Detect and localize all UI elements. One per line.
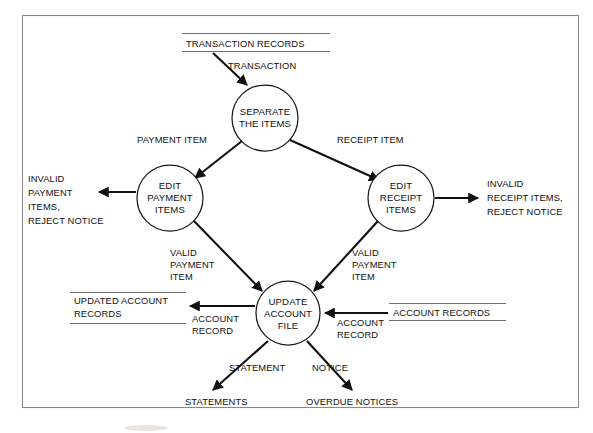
external-invalid-payment-line3: ITEMS, [28, 201, 60, 212]
external-statements: STATEMENTS [185, 396, 248, 407]
flow-statement-label: STATEMENT [229, 362, 285, 373]
data-store-updated-account-records-line1: UPDATED ACCOUNT [74, 295, 168, 306]
flow-account-record-right-line1: ACCOUNT [337, 317, 384, 328]
flow-notice: NOTICE [307, 341, 352, 390]
external-invalid-payment-line4: REJECT NOTICE [28, 215, 104, 226]
process-edit-receipt-items-line1: EDIT [390, 180, 412, 191]
external-invalid-receipt-line1: INVALID [487, 178, 524, 189]
external-invalid-payment-line1: INVALID [28, 173, 65, 184]
flow-receipt-item-label: RECEIPT ITEM [337, 134, 404, 145]
process-separate-the-items-line2: THE ITEMS [239, 118, 291, 129]
process-edit-payment-items-line1: EDIT [159, 180, 181, 191]
process-edit-payment-items-line3: ITEMS [155, 204, 185, 215]
process-separate-the-items-line1: SEPARATE [240, 106, 291, 117]
process-update-account-file-line3: FILE [278, 320, 299, 331]
flow-payment-item-label: PAYMENT ITEM [137, 134, 207, 145]
data-flow-diagram: TRANSACTION RECORDS TRANSACTION SEPARATE… [0, 0, 593, 433]
process-update-account-file-line2: ACCOUNT [264, 308, 312, 319]
flow-account-record-right: ACCOUNT RECORD [325, 313, 388, 340]
external-invalid-receipt-line3: REJECT NOTICE [487, 206, 563, 217]
flow-account-record-left: ACCOUNT RECORD [190, 306, 255, 336]
flow-transaction-label: TRANSACTION [228, 60, 296, 71]
flow-valid-payment-right: VALID PAYMENT ITEM [314, 221, 397, 291]
data-store-updated-account-records-line2: RECORDS [74, 308, 122, 319]
flow-valid-payment-left-line3: ITEM [170, 271, 193, 282]
data-store-transaction-records: TRANSACTION RECORDS [182, 34, 330, 52]
process-update-account-file[interactable]: UPDATE ACCOUNT FILE [256, 281, 320, 345]
process-edit-receipt-items-line2: RECEIPT [380, 192, 422, 203]
flow-notice-label: NOTICE [312, 362, 348, 373]
process-edit-payment-items[interactable]: EDIT PAYMENT ITEMS [137, 165, 203, 231]
external-invalid-receipt: INVALID RECEIPT ITEMS, REJECT NOTICE [487, 178, 563, 217]
flow-account-record-right-line2: RECORD [337, 329, 378, 340]
external-statements-label: STATEMENTS [185, 396, 248, 407]
scan-artifact [124, 425, 168, 431]
external-invalid-payment: INVALID PAYMENT ITEMS, REJECT NOTICE [28, 173, 104, 226]
external-overdue-notices-label: OVERDUE NOTICES [306, 396, 398, 407]
flow-valid-payment-right-line2: PAYMENT [352, 259, 397, 270]
diagram-canvas: TRANSACTION RECORDS TRANSACTION SEPARATE… [0, 0, 593, 433]
data-store-account-records-label: ACCOUNT RECORDS [393, 307, 490, 318]
external-invalid-receipt-line2: RECEIPT ITEMS, [487, 192, 563, 203]
data-store-account-records: ACCOUNT RECORDS [389, 304, 506, 321]
process-edit-receipt-items-line3: ITEMS [386, 204, 416, 215]
process-update-account-file-line1: UPDATE [269, 296, 308, 307]
flow-valid-payment-right-line3: ITEM [352, 271, 375, 282]
flow-transaction: TRANSACTION [213, 53, 296, 85]
flow-valid-payment-right-line1: VALID [352, 247, 379, 258]
flow-valid-payment-left-line1: VALID [170, 247, 197, 258]
process-edit-payment-items-line2: PAYMENT [147, 192, 193, 203]
external-overdue-notices: OVERDUE NOTICES [306, 396, 398, 407]
flow-account-record-left-line2: RECORD [192, 325, 233, 336]
flow-valid-payment-left: VALID PAYMENT ITEM [170, 221, 262, 291]
data-store-updated-account-records: UPDATED ACCOUNT RECORDS [70, 293, 186, 324]
flow-account-record-left-line1: ACCOUNT [192, 313, 239, 324]
external-invalid-payment-line2: PAYMENT [28, 187, 73, 198]
flow-statement: STATEMENT [213, 341, 285, 390]
data-store-transaction-records-label: TRANSACTION RECORDS [186, 38, 305, 49]
flow-valid-payment-left-line2: PAYMENT [170, 259, 215, 270]
